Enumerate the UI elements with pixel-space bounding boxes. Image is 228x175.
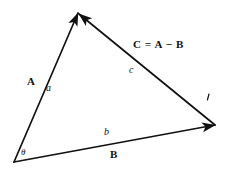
vector-b-label: B [110, 149, 118, 160]
vector-c-arrow [79, 14, 215, 125]
side-c-label: c [129, 65, 133, 75]
vector-triangle-figure: A a B b C = A − B c θ [0, 0, 228, 175]
vector-equation-label: C = A − B [133, 39, 184, 50]
vector-a-label: A [27, 76, 35, 87]
angle-theta-label: θ [21, 148, 25, 157]
tick-mark-icon [207, 94, 209, 100]
side-b-label: b [104, 127, 109, 137]
side-a-label: a [46, 83, 51, 93]
